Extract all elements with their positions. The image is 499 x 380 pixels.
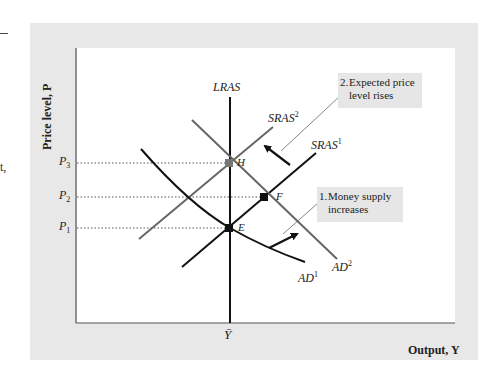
ybar-tick-label: Ȳ: [224, 327, 231, 343]
ad-shift-arrow: [269, 234, 297, 248]
sras2-label: SRAS2: [268, 110, 299, 126]
callout-expected-price: 2.Expected price level rises: [338, 73, 422, 108]
point-h-marker: [225, 159, 233, 167]
sras-shift-arrow: [265, 146, 290, 165]
y-axis-label: Price level, P: [40, 84, 55, 150]
callout1-leader: [283, 203, 318, 234]
chart-graphics: [0, 0, 499, 380]
point-f-marker: [260, 193, 268, 201]
sras1-label: SRAS1: [311, 137, 342, 153]
ad2-label: AD2: [332, 259, 352, 275]
lras-label: LRAS: [213, 80, 240, 95]
callout-money-supply: 1.Money supply increases: [317, 187, 403, 222]
ad1-label: AD1: [298, 270, 318, 286]
p1-tick-label: P1: [59, 219, 70, 235]
point-e-label: E: [238, 221, 245, 233]
p2-tick-label: P2: [59, 188, 70, 204]
point-h-label: H: [237, 156, 245, 168]
point-f-label: F: [276, 190, 283, 202]
sras2-curve: [139, 127, 273, 239]
x-axis-label: Output, Y: [408, 343, 460, 358]
point-e-marker: [225, 224, 233, 232]
p3-tick-label: P3: [59, 154, 70, 170]
